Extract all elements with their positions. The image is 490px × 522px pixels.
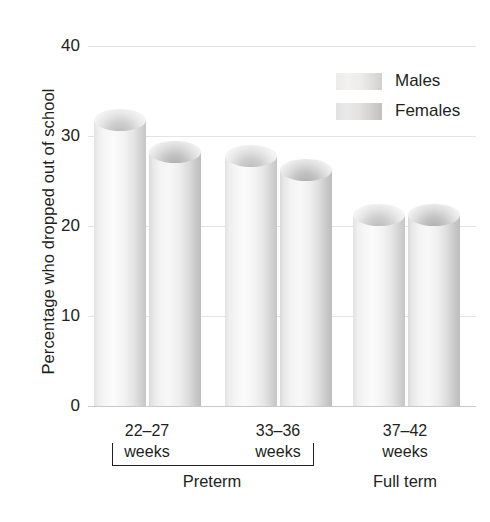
bar-22-27-weeks-males bbox=[94, 109, 146, 406]
y-tick-label-0: 0 bbox=[46, 396, 80, 416]
bar-cap bbox=[280, 159, 332, 181]
legend-item-males: Males bbox=[336, 66, 486, 96]
bar-37-42-weeks-females bbox=[408, 204, 460, 407]
bar-cap bbox=[408, 204, 460, 226]
bar-37-42-weeks-males bbox=[353, 204, 405, 407]
bar-33-36-weeks-females bbox=[280, 159, 332, 407]
y-tick-label-20: 20 bbox=[46, 216, 80, 236]
super-group-label-full-term: Full term bbox=[345, 472, 465, 491]
preterm-bracket bbox=[112, 443, 314, 466]
bar-body bbox=[408, 215, 460, 407]
bar-cap bbox=[149, 141, 201, 163]
legend-swatch-females-icon bbox=[336, 103, 382, 120]
bar-22-27-weeks-females bbox=[149, 141, 201, 407]
bar-body bbox=[94, 120, 146, 406]
legend-swatch-males-icon bbox=[336, 73, 382, 90]
x-axis-label-37-42-weeks: 37–42 weeks bbox=[345, 420, 465, 462]
legend-item-females: Females bbox=[336, 96, 486, 126]
bar-cap bbox=[225, 145, 277, 167]
chart-legend: Males Females bbox=[336, 66, 486, 126]
x-label-line2: weeks bbox=[345, 441, 465, 462]
gridline-30 bbox=[88, 136, 476, 137]
bar-chart: Percentage who dropped out of school 40 … bbox=[0, 0, 490, 522]
x-label-line1: 33–36 bbox=[256, 422, 301, 439]
super-group-label-preterm: Preterm bbox=[112, 472, 312, 491]
bar-cap bbox=[94, 109, 146, 131]
legend-label-females: Females bbox=[395, 101, 460, 121]
legend-label-males: Males bbox=[395, 71, 440, 91]
axis-baseline-0 bbox=[88, 406, 476, 407]
bar-cap bbox=[353, 204, 405, 226]
gridline-40 bbox=[88, 46, 476, 47]
bar-body bbox=[149, 152, 201, 407]
bar-body bbox=[353, 215, 405, 407]
y-tick-label-40: 40 bbox=[46, 36, 80, 56]
x-label-line1: 37–42 bbox=[383, 422, 428, 439]
y-tick-label-30: 30 bbox=[46, 126, 80, 146]
x-label-line1: 22–27 bbox=[125, 422, 170, 439]
bar-33-36-weeks-males bbox=[225, 145, 277, 406]
y-tick-label-10: 10 bbox=[46, 306, 80, 326]
bar-body bbox=[225, 156, 277, 406]
bar-body bbox=[280, 170, 332, 407]
